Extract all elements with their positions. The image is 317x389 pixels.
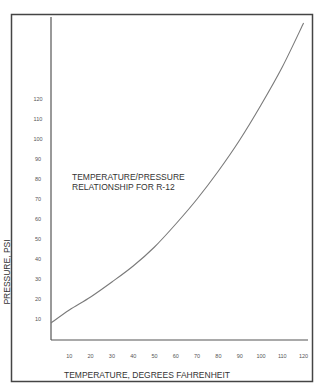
x-tick-label: 10 — [66, 353, 72, 359]
x-tick-label: 60 — [173, 353, 179, 359]
y-tick-label: 120 — [33, 96, 42, 102]
y-tick-label: 40 — [35, 256, 41, 262]
y-tick-label: 60 — [35, 216, 41, 222]
y-tick-labels: 102030405060708090100110120 — [33, 96, 42, 322]
x-tick-label: 120 — [299, 353, 308, 359]
x-tick-label: 90 — [237, 353, 243, 359]
y-tick-label: 110 — [34, 116, 43, 122]
y-axis-label: PRESSURE, PSI — [2, 239, 12, 304]
x-tick-label: 80 — [215, 353, 221, 359]
chart-title-line-2: RELATIONSHIP FOR R-12 — [72, 182, 175, 192]
x-tick-label: 100 — [256, 353, 265, 359]
y-tick-label: 70 — [35, 196, 41, 202]
outer-frame — [12, 15, 313, 382]
x-tick-label: 110 — [278, 353, 287, 359]
x-tick-labels: 102030405060708090100110120 — [66, 353, 308, 359]
x-tick-label: 50 — [151, 353, 157, 359]
y-tick-label: 30 — [35, 276, 41, 282]
y-tick-label: 20 — [35, 296, 41, 302]
x-tick-label: 30 — [109, 353, 115, 359]
x-axis-label: TEMPERATURE, DEGREES FAHRENHEIT — [64, 370, 230, 380]
x-tick-label: 40 — [130, 353, 136, 359]
y-tick-label: 50 — [35, 236, 41, 242]
y-tick-label: 80 — [35, 176, 41, 182]
y-tick-label: 90 — [35, 156, 41, 162]
pressure-temperature-chart: 102030405060708090100110120 102030405060… — [0, 0, 317, 389]
x-tick-label: 70 — [194, 353, 200, 359]
y-tick-label: 100 — [33, 136, 42, 142]
y-tick-label: 10 — [35, 316, 41, 322]
chart-title-line-1: TEMPERATURE/PRESSURE — [72, 172, 185, 182]
x-tick-label: 20 — [88, 353, 94, 359]
